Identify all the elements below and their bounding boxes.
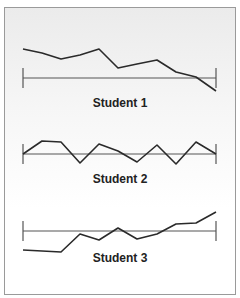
data-line [23,49,216,91]
student-1-panel [23,49,216,91]
student-3-label: Student 3 [0,251,240,265]
student-1-label: Student 1 [0,96,240,110]
data-line [23,141,216,164]
student-3-panel [23,212,216,252]
data-line [23,212,216,252]
student-2-label: Student 2 [0,172,240,186]
student-2-panel [23,141,216,164]
